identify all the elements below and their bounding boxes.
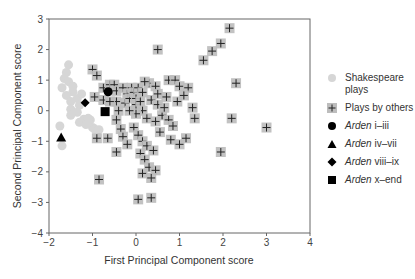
data-point [84, 114, 93, 123]
data-point [77, 89, 86, 98]
data-point [262, 123, 272, 133]
legend-label-italic: Arden [345, 174, 372, 185]
data-point [159, 103, 169, 113]
y-tick-label: 3 [37, 14, 43, 25]
data-point [198, 55, 208, 65]
legend-label: x–end [372, 174, 402, 185]
data-point [103, 133, 113, 143]
data-point [95, 125, 104, 134]
data-point [135, 97, 145, 107]
black-square-icon [327, 174, 337, 186]
legend-label: Plays by others [345, 102, 413, 114]
data-point [175, 81, 185, 91]
data-point [64, 60, 73, 69]
data-point [111, 147, 121, 157]
legend-label-line2: plays [345, 84, 368, 95]
legend-label: iv–vii [372, 138, 397, 149]
data-point [124, 106, 134, 116]
y-tick-label: 1 [37, 75, 43, 86]
data-point [231, 78, 241, 88]
black-circle-icon [327, 120, 337, 132]
arden-x-end-point [101, 107, 110, 116]
data-point [227, 113, 237, 123]
data-point [68, 82, 77, 91]
square-plus-icon [327, 102, 337, 114]
data-point [92, 133, 102, 143]
data-point [58, 141, 67, 150]
y-tick-label: −1 [32, 136, 44, 147]
grey-circle-icon [327, 72, 337, 84]
x-tick-label: 0 [133, 237, 139, 248]
y-tick-label: 0 [37, 105, 43, 116]
data-point [142, 113, 152, 123]
y-tick-label: −3 [32, 197, 44, 208]
data-point [140, 77, 150, 87]
data-point [168, 121, 178, 131]
black-diamond-icon [327, 156, 337, 168]
data-point [138, 87, 148, 97]
data-point [172, 97, 182, 107]
legend-item-arden-x-end: Arden x–end [327, 174, 413, 186]
data-point [90, 92, 100, 102]
data-point [133, 194, 143, 204]
legend-label-italic: Arden [345, 156, 372, 167]
data-point [94, 175, 104, 185]
data-point [58, 83, 67, 92]
series-plays-by-others [88, 23, 272, 204]
x-tick-label: 2 [220, 237, 226, 248]
data-point [166, 135, 176, 145]
data-point [175, 139, 185, 149]
legend-item-arden-iv-vii: Arden iv–vii [327, 138, 413, 150]
arden-iv-vii-point [56, 133, 66, 142]
data-point [138, 168, 148, 178]
legend-label: Shakespeare [345, 72, 404, 83]
data-point [66, 111, 75, 120]
y-tick-label: −2 [32, 166, 44, 177]
x-tick-label: 3 [264, 237, 270, 248]
data-point [207, 46, 217, 56]
legend-item-others: Plays by others [327, 102, 413, 114]
data-point [153, 45, 163, 55]
data-point [55, 122, 64, 131]
data-point [105, 97, 115, 107]
data-point [122, 139, 132, 149]
x-tick-label: −1 [87, 237, 99, 248]
x-axis-label: First Principal Component score [104, 254, 254, 266]
x-tick-label: 4 [307, 237, 313, 248]
legend-item-shakespeare: Shakespeare plays [327, 72, 413, 96]
data-point [216, 147, 226, 157]
legend-label-italic: Arden [345, 138, 372, 149]
y-tick-label: 2 [37, 44, 43, 55]
data-point [111, 115, 121, 125]
legend-item-arden-viii-ix: Arden viii–ix [327, 156, 413, 168]
x-tick-label: 1 [177, 237, 183, 248]
y-tick-label: −4 [32, 228, 44, 239]
black-triangle-icon [327, 138, 337, 150]
data-point [188, 103, 198, 113]
data-point [92, 71, 102, 81]
legend-label: i–iii [372, 120, 389, 131]
legend-label-italic: Arden [345, 120, 372, 131]
y-axis-label: Second Principal Component score [11, 44, 23, 209]
data-point [161, 92, 171, 102]
legend: Shakespeare plays Plays by others Arden … [327, 72, 413, 192]
data-point [148, 145, 158, 155]
data-point [146, 173, 156, 183]
legend-label: viii–ix [372, 156, 399, 167]
data-point [155, 127, 165, 137]
data-point [225, 23, 235, 33]
arden-i-iii-point [104, 87, 113, 96]
legend-item-arden-i-iii: Arden i–iii [327, 120, 413, 132]
data-point [190, 113, 200, 123]
data-point [146, 193, 156, 203]
data-point [216, 38, 226, 48]
x-tick-label: −2 [43, 237, 55, 248]
